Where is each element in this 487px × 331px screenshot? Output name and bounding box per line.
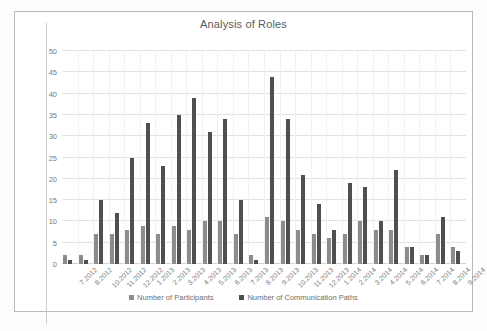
bar-11.2013-series-2[interactable] [301, 175, 305, 264]
bar-12.2012-series-1[interactable] [125, 230, 129, 264]
bar-group [140, 51, 156, 264]
bar-12.2013-series-2[interactable] [317, 204, 321, 264]
bar-group [171, 51, 187, 264]
bar-group [217, 51, 233, 264]
legend-label: Number of Participants [137, 293, 213, 302]
bar-4.2014-series-2[interactable] [379, 221, 383, 264]
y-tick-label: 20 [49, 174, 57, 183]
y-tick-label: 15 [49, 196, 57, 205]
bar-9.2014-series-2[interactable] [456, 251, 460, 264]
scanned-page-background: Analysis of Roles 05101520253035404550 7… [0, 0, 487, 331]
bar-9.2014-series-1[interactable] [451, 247, 455, 264]
bar-group [357, 51, 373, 264]
bar-1.2013-series-2[interactable] [146, 123, 150, 264]
bar-group [202, 51, 218, 264]
bar-8.2013-series-1[interactable] [249, 255, 253, 264]
bar-group [295, 51, 311, 264]
bar-group [280, 51, 296, 264]
bar-group [124, 51, 140, 264]
bar-10.2013-series-1[interactable] [281, 221, 285, 264]
bar-7.2013-series-2[interactable] [239, 200, 243, 264]
x-axis-tick-labels: 7.20128.201210.201211.201212.20121.20132… [62, 266, 466, 310]
bar-group [186, 51, 202, 264]
y-tick-label: 30 [49, 132, 57, 141]
bar-group [78, 51, 94, 264]
y-tick-label: 40 [49, 89, 57, 98]
bar-4.2013-series-1[interactable] [187, 230, 191, 264]
bar-8.2012-series-1[interactable] [79, 255, 83, 264]
bar-7.2014-series-1[interactable] [420, 255, 424, 264]
bar-7.2012-series-1[interactable] [63, 255, 67, 264]
y-tick-label: 35 [49, 110, 57, 119]
bar-12.2013-series-1[interactable] [312, 234, 316, 264]
bar-11.2012-series-1[interactable] [110, 234, 114, 264]
bar-7.2012-series-2[interactable] [68, 260, 72, 264]
bar-5.2014-series-1[interactable] [389, 230, 393, 264]
bar-1.2013-series-1[interactable] [141, 226, 145, 264]
bar-group [450, 51, 466, 264]
bar-6.2013-series-1[interactable] [218, 221, 222, 264]
bar-6.2014-series-2[interactable] [410, 247, 414, 264]
legend-swatch-icon [129, 295, 134, 300]
bar-4.2014-series-1[interactable] [374, 230, 378, 264]
bar-11.2013-series-1[interactable] [296, 230, 300, 264]
bar-group [264, 51, 280, 264]
bar-group [373, 51, 389, 264]
plot-area: 05101520253035404550 [62, 51, 466, 264]
y-tick-label: 0 [53, 260, 57, 269]
bar-2.2014-series-1[interactable] [343, 234, 347, 264]
y-tick-label: 45 [49, 68, 57, 77]
bar-group [93, 51, 109, 264]
bar-6.2014-series-1[interactable] [405, 247, 409, 264]
bar-2.2013-series-1[interactable] [156, 234, 160, 264]
bar-8.2012-series-2[interactable] [84, 260, 88, 264]
bar-4.2013-series-2[interactable] [192, 98, 196, 264]
y-tick-label: 25 [49, 153, 57, 162]
bar-11.2012-series-2[interactable] [115, 213, 119, 264]
bar-group [62, 51, 78, 264]
bar-group [404, 51, 420, 264]
bar-group [248, 51, 264, 264]
bar-7.2013-series-1[interactable] [234, 234, 238, 264]
bar-9.2013-series-2[interactable] [270, 77, 274, 264]
bar-group [233, 51, 249, 264]
legend-swatch-icon [239, 295, 244, 300]
bar-1.2014-series-2[interactable] [332, 230, 336, 264]
bar-5.2014-series-2[interactable] [394, 170, 398, 264]
bar-1.2014-series-1[interactable] [327, 238, 331, 264]
legend-item-1[interactable]: Number of Participants [129, 293, 213, 302]
y-tick-label: 5 [53, 238, 57, 247]
chart-legend: Number of ParticipantsNumber of Communic… [15, 293, 472, 302]
scan-artifact-line [46, 23, 47, 324]
chart-frame: Analysis of Roles 05101520253035404550 7… [14, 11, 473, 312]
bar-10.2013-series-2[interactable] [286, 119, 290, 264]
legend-label: Number of Communication Paths [247, 293, 357, 302]
bar-3.2014-series-2[interactable] [363, 187, 367, 264]
bar-10.2012-series-1[interactable] [94, 234, 98, 264]
bar-7.2014-series-2[interactable] [425, 255, 429, 264]
y-tick-label: 10 [49, 217, 57, 226]
bar-group [388, 51, 404, 264]
bar-6.2013-series-2[interactable] [223, 119, 227, 264]
bar-group [311, 51, 327, 264]
bar-2.2013-series-2[interactable] [161, 166, 165, 264]
bar-8.2013-series-2[interactable] [254, 260, 258, 264]
bar-9.2013-series-1[interactable] [265, 217, 269, 264]
bar-12.2012-series-2[interactable] [130, 158, 134, 265]
chart-title: Analysis of Roles [15, 18, 472, 30]
bar-3.2014-series-1[interactable] [358, 221, 362, 264]
bar-3.2013-series-1[interactable] [172, 226, 176, 264]
bar-5.2013-series-1[interactable] [203, 221, 207, 264]
bar-10.2012-series-2[interactable] [99, 200, 103, 264]
bar-3.2013-series-2[interactable] [177, 115, 181, 264]
bar-group [435, 51, 451, 264]
bar-group [326, 51, 342, 264]
legend-item-2[interactable]: Number of Communication Paths [239, 293, 357, 302]
bar-8.2014-series-2[interactable] [441, 217, 445, 264]
bar-2.2014-series-2[interactable] [348, 183, 352, 264]
bar-group [155, 51, 171, 264]
plot-inner: 05101520253035404550 [62, 51, 466, 264]
bar-8.2014-series-1[interactable] [436, 234, 440, 264]
bar-group [342, 51, 358, 264]
bar-5.2013-series-2[interactable] [208, 132, 212, 264]
